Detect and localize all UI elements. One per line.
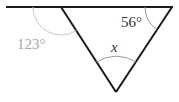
exterior-angle-label: 123° [17,36,46,52]
right-angle-arc [145,7,157,30]
triangle-left-side [61,7,116,92]
unknown-angle-label: x [110,39,118,55]
unknown-angle-arc [97,56,136,62]
triangle-diagram: 123° 56° x [0,0,179,102]
right-angle-label: 56° [121,14,142,30]
